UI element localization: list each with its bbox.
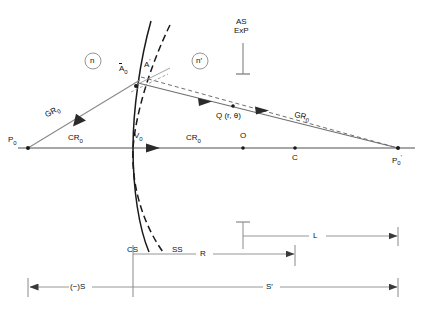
- surface-ss-label: SS: [172, 245, 183, 254]
- general-ray-refracted-solid: [138, 83, 398, 148]
- media-right-label: n′: [196, 56, 202, 65]
- image-point-label: P0′: [392, 154, 402, 167]
- aperture-point-label: A0: [119, 64, 128, 75]
- general-ray-incident-arrow: [73, 114, 86, 127]
- chief-ray-right-label: CR0: [186, 133, 201, 144]
- media-left-label: n: [90, 56, 94, 65]
- object-point-dot: [26, 146, 30, 150]
- center-label: C: [292, 153, 298, 162]
- dim-R-label: R: [200, 249, 206, 258]
- center-point-dot: [293, 146, 297, 150]
- general-ray-refracted-dashed: [141, 77, 398, 148]
- image-point-dot: [396, 146, 400, 150]
- diagram-canvas: [0, 0, 423, 312]
- aperture-construction-line: [136, 68, 170, 85]
- optical-diagram: n n′ AS ExP P0 P0′ V0 O C A0 A′ Q (r, θ)…: [0, 0, 423, 312]
- origin-point-dot: [241, 146, 245, 150]
- dim-S-neg-label: (−)S: [70, 282, 85, 291]
- chief-ray-arrow-left: [146, 144, 160, 153]
- query-point-label: Q (r, θ): [216, 111, 241, 120]
- origin-label: O: [240, 131, 246, 140]
- aperture-point-dot: [134, 84, 138, 88]
- dim-S-prime-label: S′: [266, 282, 273, 291]
- surface-cs-label: CS: [127, 245, 138, 254]
- exit-pupil-line2: ExP: [234, 26, 249, 35]
- aperture-stop-line1: AS: [234, 17, 249, 26]
- general-ray-refracted-dashed-arrow: [255, 107, 269, 115]
- dim-L-label: L: [313, 231, 317, 240]
- aperture-point-prime-label: A′: [144, 58, 150, 69]
- object-point-label: P0: [8, 135, 17, 146]
- vertex-label: V0: [134, 131, 143, 142]
- chief-ray-left-label: CR0: [68, 133, 83, 144]
- aperture-stop-label: AS ExP: [234, 17, 249, 35]
- query-point-dot: [231, 104, 235, 108]
